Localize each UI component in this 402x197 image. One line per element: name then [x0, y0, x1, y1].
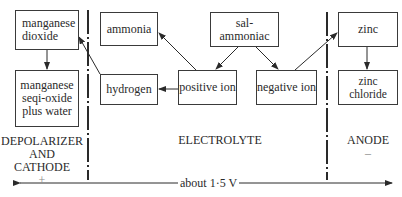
box-zinc: zinc — [338, 12, 398, 47]
voltage-label: about 1·5 V — [178, 177, 239, 189]
cathode-sign: + — [0, 174, 84, 187]
region-label-anode: ANODE – — [340, 134, 396, 160]
region-label-cathode: DEPOLARIZER AND CATHODE + — [0, 135, 84, 187]
arrow-hydrogen-to-mno2 — [79, 37, 100, 74]
box-zinc-chloride: zinc chloride — [338, 70, 398, 105]
box-hydrogen: hydrogen — [100, 74, 158, 105]
region-label-electrolyte: ELECTROLYTE — [150, 134, 290, 147]
anode-sign: – — [340, 147, 396, 160]
box-positive-ion: positive ion — [178, 70, 237, 105]
box-negative-ion: negative ion — [256, 70, 317, 105]
arrow-negative-to-zinc — [295, 33, 337, 70]
box-sal-ammoniac: sal-ammoniac — [210, 12, 279, 47]
arrow-salammoniac-to-negative — [256, 47, 278, 69]
box-manganese-dioxide: manganese dioxide — [15, 10, 79, 50]
box-manganese-seqi-oxide: manganese seqi-oxide plus water — [15, 70, 79, 127]
box-ammonia: ammonia — [100, 12, 158, 46]
arrow-salammoniac-to-positive — [216, 47, 238, 69]
arrow-positive-to-ammonia — [159, 33, 196, 70]
